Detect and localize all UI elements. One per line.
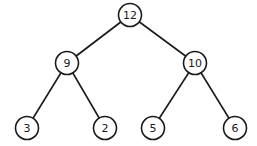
tree-node-left-right: 2 <box>94 117 117 140</box>
tree-node-left-left: 3 <box>16 117 39 140</box>
node-label: 2 <box>102 122 109 135</box>
node-label: 9 <box>64 57 71 70</box>
nodes: 12 9 10 3 2 5 6 <box>16 4 247 140</box>
tree-node-right-right: 6 <box>224 117 247 140</box>
node-label: 12 <box>123 9 137 22</box>
node-label: 5 <box>150 122 157 135</box>
tree-node-right: 10 <box>184 52 207 75</box>
tree-node-left: 9 <box>56 52 79 75</box>
node-label: 6 <box>232 122 239 135</box>
node-label: 10 <box>188 57 202 70</box>
tree-node-root: 12 <box>119 4 142 27</box>
tree-node-right-left: 5 <box>142 117 165 140</box>
node-label: 3 <box>24 122 31 135</box>
binary-tree-diagram: 12 9 10 3 2 5 6 <box>0 0 257 146</box>
